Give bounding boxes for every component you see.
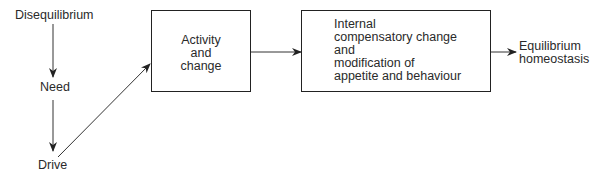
- equilibrium-line-2: homeostasis: [519, 53, 589, 66]
- internal-compensatory-box: Internal compensatory change and modific…: [301, 10, 491, 92]
- node-equilibrium: Equilibrium homeostasis: [519, 40, 589, 66]
- internal-line-5: appetite and behaviour: [334, 70, 461, 83]
- connector-arrows: [0, 0, 595, 178]
- activity-box: Activity and change: [151, 10, 251, 92]
- arrow-drive-to-activity: [58, 64, 150, 157]
- node-drive: Drive: [38, 158, 67, 172]
- node-need: Need: [40, 80, 70, 94]
- node-disequilibrium: Disequilibrium: [15, 8, 94, 22]
- activity-line-3: change: [152, 60, 250, 73]
